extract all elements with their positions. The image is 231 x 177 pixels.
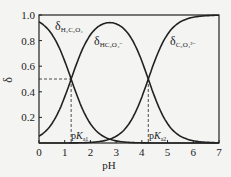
y-tick-label: 0.8	[21, 35, 35, 47]
y-tick-label: 0.4	[21, 86, 35, 98]
x-tick-label: 6	[191, 146, 197, 158]
label-h2c2o4: δH₂C₂O₄	[55, 19, 83, 34]
label-hc2o4: δHC₂O₄⁻	[94, 34, 123, 49]
pka-guides	[39, 79, 148, 143]
y-tick-label: 1.0	[21, 9, 35, 21]
y-tick-label: 0.6	[21, 60, 35, 72]
x-tick-label: 2	[88, 146, 94, 158]
pka2-label: pKa2	[149, 130, 166, 142]
x-axis-label: pH	[102, 159, 116, 171]
distribution-chart: 012345670.20.40.60.81.0 δH₂C₂O₄ δHC₂O₄⁻ …	[0, 0, 231, 177]
x-tick-label: 0	[36, 146, 42, 158]
pka1-label: pKa1	[71, 130, 88, 142]
y-axis-label: δ	[1, 77, 15, 83]
x-tick-label: 4	[139, 146, 145, 158]
label-c2o4: δC₂O₄²⁻	[170, 34, 196, 49]
axis-ticks: 012345670.20.40.60.81.0	[21, 9, 222, 158]
x-tick-label: 3	[113, 146, 119, 158]
x-tick-label: 1	[62, 146, 68, 158]
y-tick-label: 0.2	[21, 111, 35, 123]
x-tick-label: 7	[216, 146, 222, 158]
x-tick-label: 5	[165, 146, 171, 158]
